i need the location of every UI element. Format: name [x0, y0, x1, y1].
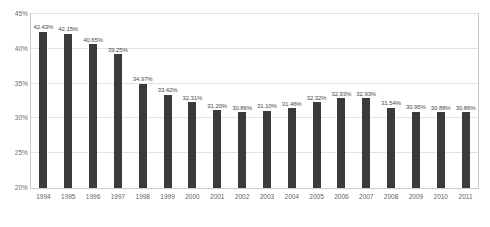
- bar-value-label: 42.43%: [34, 24, 54, 30]
- x-axis-tick-label: 2010: [434, 193, 448, 200]
- plot-area: 42.43%42.15%40.65%39.25%34.97%33.42%32.3…: [30, 13, 479, 189]
- bar[interactable]: [139, 84, 147, 188]
- y-axis-tick-label: 35%: [15, 79, 28, 86]
- bar-slot: 42.43%: [31, 14, 56, 188]
- bars-layer: 42.43%42.15%40.65%39.25%34.97%33.42%32.3…: [31, 14, 478, 188]
- bar-slot: 30.86%: [453, 14, 478, 188]
- bar[interactable]: [238, 112, 246, 188]
- y-axis: 20%25%30%35%40%45%: [0, 13, 29, 189]
- bar[interactable]: [387, 108, 395, 188]
- y-axis-tick-label: 25%: [15, 149, 28, 156]
- bar[interactable]: [39, 32, 47, 188]
- x-axis-tick-label: 1995: [61, 193, 75, 200]
- bar-slot: 33.42%: [155, 14, 180, 188]
- bar[interactable]: [337, 98, 345, 188]
- bar[interactable]: [412, 112, 420, 188]
- x-axis-tick-label: 2011: [459, 193, 473, 200]
- bar-slot: 31.54%: [379, 14, 404, 188]
- x-axis-tick-label: 1997: [111, 193, 125, 200]
- bar[interactable]: [263, 111, 271, 188]
- bar-slot: 32.93%: [354, 14, 379, 188]
- bar-value-label: 32.32%: [307, 95, 327, 101]
- bar-slot: 34.97%: [130, 14, 155, 188]
- x-axis-tick-label: 1996: [86, 193, 100, 200]
- x-axis-tick-label: 1999: [160, 193, 174, 200]
- x-axis-tick-label: 2008: [384, 193, 398, 200]
- x-axis-tick-label: 2009: [409, 193, 423, 200]
- bar-slot: 30.95%: [404, 14, 429, 188]
- bar-chart: 20%25%30%35%40%45% 42.43%42.15%40.65%39.…: [0, 0, 490, 227]
- bar-slot: 32.32%: [304, 14, 329, 188]
- x-axis-tick-label: 1998: [136, 193, 150, 200]
- bar-slot: 32.31%: [180, 14, 205, 188]
- bar[interactable]: [64, 34, 72, 188]
- bar-slot: 31.46%: [279, 14, 304, 188]
- x-axis-tick-label: 2004: [285, 193, 299, 200]
- bar-slot: 42.15%: [56, 14, 81, 188]
- bar-value-label: 30.88%: [431, 105, 451, 111]
- bar[interactable]: [188, 102, 196, 188]
- bar-value-label: 31.20%: [207, 103, 227, 109]
- bar-value-label: 30.86%: [456, 105, 476, 111]
- bar-slot: 39.25%: [106, 14, 131, 188]
- y-axis-tick-label: 20%: [15, 184, 28, 191]
- bar-slot: 31.10%: [255, 14, 280, 188]
- bar[interactable]: [164, 95, 172, 188]
- bar-value-label: 40.65%: [83, 37, 103, 43]
- bar-slot: 30.88%: [428, 14, 453, 188]
- bar[interactable]: [114, 54, 122, 188]
- y-axis-tick-label: 30%: [15, 114, 28, 121]
- x-axis-tick-label: 2001: [210, 193, 224, 200]
- bar-slot: 31.20%: [205, 14, 230, 188]
- x-axis: 1994199519961997199819992000200120022003…: [30, 191, 479, 213]
- x-axis-tick-label: 2002: [235, 193, 249, 200]
- bar[interactable]: [288, 108, 296, 188]
- bar[interactable]: [89, 44, 97, 188]
- bar-value-label: 34.97%: [133, 76, 153, 82]
- bar[interactable]: [362, 98, 370, 188]
- bar-value-label: 31.10%: [257, 103, 277, 109]
- bar[interactable]: [213, 110, 221, 188]
- x-axis-tick-label: 2000: [185, 193, 199, 200]
- bar-value-label: 31.46%: [282, 101, 302, 107]
- bar-value-label: 42.15%: [58, 26, 78, 32]
- bar-value-label: 33.42%: [158, 87, 178, 93]
- x-axis-tick-label: 2005: [309, 193, 323, 200]
- x-axis-tick-label: 2003: [260, 193, 274, 200]
- bar-value-label: 32.31%: [183, 95, 203, 101]
- x-axis-tick-label: 2006: [334, 193, 348, 200]
- bar-value-label: 31.54%: [381, 100, 401, 106]
- bar[interactable]: [437, 112, 445, 188]
- x-axis-tick-label: 2007: [359, 193, 373, 200]
- bar[interactable]: [313, 102, 321, 188]
- bar-value-label: 30.86%: [232, 105, 252, 111]
- bar-slot: 40.65%: [81, 14, 106, 188]
- y-axis-tick-label: 40%: [15, 44, 28, 51]
- bar-value-label: 30.95%: [406, 104, 426, 110]
- bar-slot: 30.86%: [230, 14, 255, 188]
- bar-value-label: 39.25%: [108, 47, 128, 53]
- x-axis-tick-label: 1994: [36, 193, 50, 200]
- bar-value-label: 32.93%: [332, 91, 352, 97]
- bar[interactable]: [462, 112, 470, 188]
- bar-value-label: 32.93%: [356, 91, 376, 97]
- y-axis-tick-label: 45%: [15, 10, 28, 17]
- bar-slot: 32.93%: [329, 14, 354, 188]
